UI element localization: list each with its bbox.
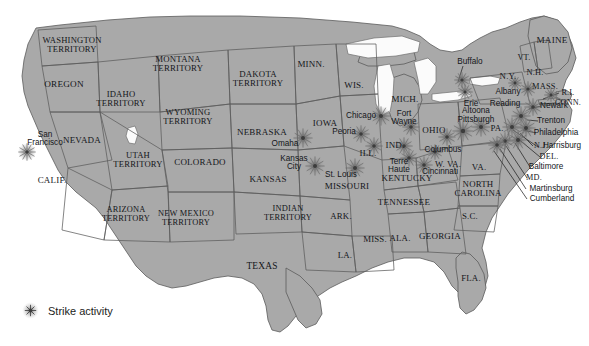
strike-burst-icon-albany	[520, 81, 536, 97]
strike-burst-icon-columbus	[427, 144, 443, 160]
strike-burst-icon-new-york	[508, 76, 522, 90]
map-legend: Strike activity	[22, 302, 113, 319]
strike-burst-icon-chicago	[371, 106, 391, 126]
strike-burst-icon-omaha	[293, 128, 313, 148]
strike-burst-icon-kansas-city	[305, 156, 325, 176]
strike-burst-icon-newark	[524, 98, 542, 116]
strike-burst-icon	[22, 302, 39, 319]
strike-burst-icon-pittsburgh	[452, 120, 474, 142]
strike-burst-icon-illinois	[365, 137, 383, 155]
strike-burst-icon-st-louis	[345, 158, 365, 178]
us-territories-map	[0, 0, 589, 346]
strike-burst-icon-indiana	[395, 137, 413, 155]
map-canvas: WASHINGTON TERRITORYOREGONIDAHO TERRITOR…	[0, 0, 589, 346]
strike-burst-icon-san-francisco	[18, 143, 36, 161]
strike-burst-icon-cincinnati	[415, 156, 433, 174]
strike-burst-icon-mass	[544, 88, 558, 102]
strike-burst-icon-cumberland	[488, 136, 506, 154]
strike-burst-icon-buffalo	[454, 72, 470, 88]
legend-label: Strike activity	[48, 305, 113, 317]
strike-burst-icon-altoona	[471, 117, 491, 137]
strike-burst-icon-fort-wayne	[402, 118, 420, 136]
